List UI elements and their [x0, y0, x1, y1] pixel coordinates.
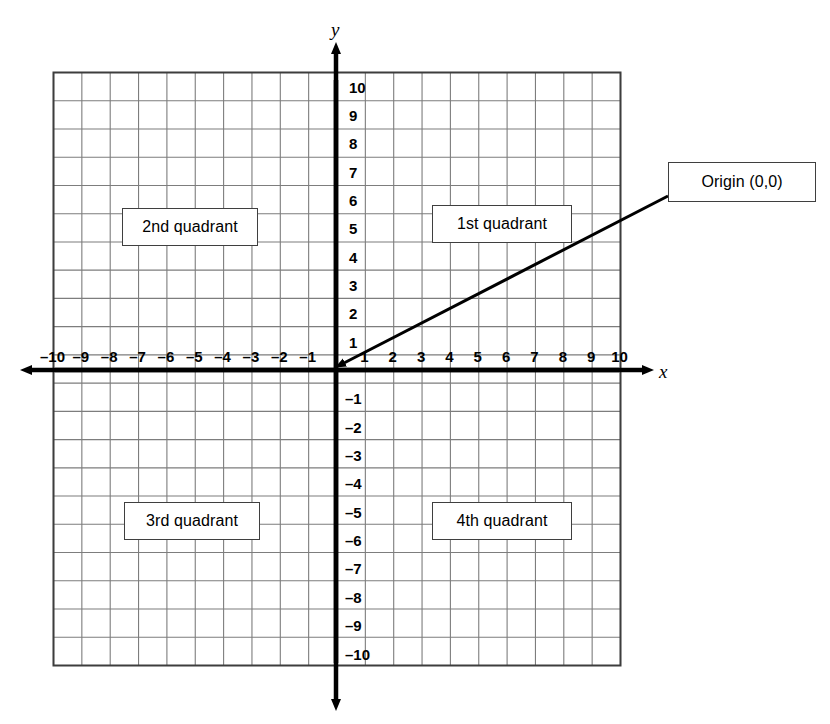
quadrant-label-first: 1st quadrant	[432, 205, 572, 243]
quadrant-label-third: 3rd quadrant	[124, 502, 260, 540]
y-tick--3: –3	[345, 448, 362, 463]
x-tick-4: 4	[445, 349, 453, 364]
x-tick--10: –10	[40, 349, 65, 364]
y-tick-6: 6	[349, 192, 357, 207]
x-tick--8: –8	[101, 349, 118, 364]
x-tick--2: –2	[271, 349, 288, 364]
y-tick--6: –6	[345, 533, 362, 548]
origin-callout-box: Origin (0,0)	[668, 162, 816, 202]
y-tick-10: 10	[349, 79, 366, 94]
x-tick--1: –1	[299, 349, 316, 364]
x-tick-10: 10	[611, 349, 628, 364]
y-tick--8: –8	[345, 589, 362, 604]
y-tick--5: –5	[345, 504, 362, 519]
y-tick--7: –7	[345, 561, 362, 576]
y-tick-3: 3	[349, 277, 357, 292]
x-tick-2: 2	[389, 349, 397, 364]
x-tick--5: –5	[186, 349, 203, 364]
y-tick--9: –9	[345, 618, 362, 633]
x-tick--9: –9	[73, 349, 90, 364]
x-tick-7: 7	[530, 349, 538, 364]
x-tick-1: 1	[360, 349, 368, 364]
y-tick-4: 4	[349, 249, 357, 264]
y-tick--10: –10	[345, 646, 370, 661]
y-tick-5: 5	[349, 221, 357, 236]
x-tick-9: 9	[587, 349, 595, 364]
x-tick--6: –6	[158, 349, 175, 364]
x-tick-8: 8	[559, 349, 567, 364]
y-tick--1: –1	[345, 391, 362, 406]
y-axis-letter: y	[331, 20, 339, 39]
quadrant-label-fourth: 4th quadrant	[432, 502, 572, 540]
x-tick--7: –7	[129, 349, 146, 364]
y-tick--2: –2	[345, 419, 362, 434]
x-tick-6: 6	[502, 349, 510, 364]
quadrant-label-second: 2nd quadrant	[122, 208, 258, 246]
y-tick-9: 9	[349, 107, 357, 122]
y-tick-8: 8	[349, 136, 357, 151]
y-tick-2: 2	[349, 306, 357, 321]
x-tick--3: –3	[243, 349, 260, 364]
y-tick-7: 7	[349, 164, 357, 179]
x-axis-letter: x	[659, 362, 667, 381]
coordinate-plane-svg	[0, 0, 830, 724]
y-tick--4: –4	[345, 476, 362, 491]
y-tick-1: 1	[349, 334, 357, 349]
x-tick-3: 3	[417, 349, 425, 364]
x-tick--4: –4	[214, 349, 231, 364]
coordinate-plane-diagram: –10–9–8–7–6–5–4–3–2–11234567891010987654…	[0, 0, 830, 724]
x-tick-5: 5	[474, 349, 482, 364]
